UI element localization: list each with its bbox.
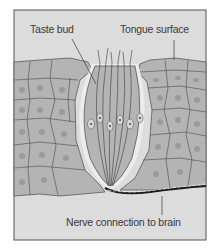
label-taste-bud: Taste bud [30,23,74,35]
label-nerve-connection: Nerve connection to brain [66,216,181,228]
label-tongue-surface: Tongue surface [120,23,189,35]
taste-bud-diagram [0,0,218,252]
